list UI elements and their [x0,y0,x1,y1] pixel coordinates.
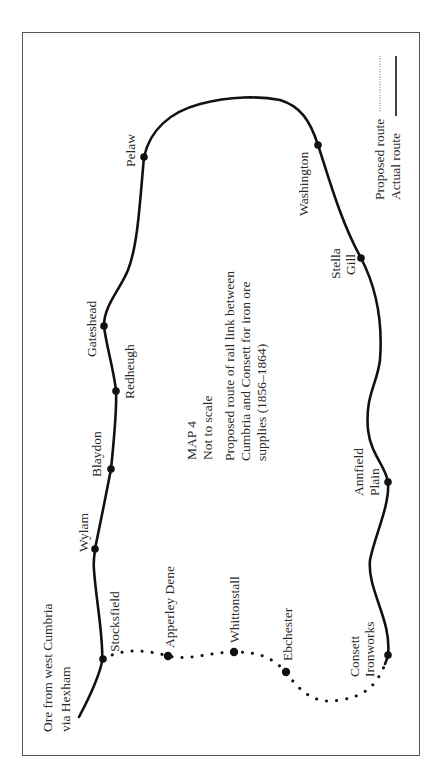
label-redheugh: Redheugh [122,344,137,399]
station-dot-wylam [91,545,99,553]
label-gateshead: Gateshead [84,301,99,357]
label-pelaw: Pelaw [123,134,138,167]
station-dot-annfield-plain [384,478,392,486]
label-annfield: Annfield [351,448,366,496]
label-ebchester: Ebchester [280,608,295,661]
origin-note-line-2: via Hexham [58,666,73,732]
station-dot-whittonstall [230,648,238,656]
station-dot-ebchester [282,668,290,676]
label-consett: Consett [347,636,362,677]
map-title: MAP 4 [184,421,199,460]
station-dot-blaydon [107,465,115,473]
station-dot-stocksfield [99,655,107,663]
label-washington: Washington [296,152,311,216]
legend-proposed-label: Proposed route [372,119,387,200]
caption-line-2: Cumbria and Consett for iron ore [238,281,253,461]
station-dot-pelaw [140,153,148,161]
label-blaydon: Blaydon [89,431,104,477]
caption-line-1: Proposed route of rail link between [222,271,237,461]
station-dot-consett-ironworks [384,651,392,659]
station-dot-stella-gill [357,254,365,262]
station-dot-washington [314,141,322,149]
label-apperley-dene: Apperley Dene [162,566,177,648]
caption-line-3: supplies (1856–1864) [254,344,269,461]
station-dot-gateshead [100,322,108,330]
proposed-route-line [103,651,385,701]
label-whittonstall: Whittonstall [227,576,242,643]
label-wylam: Wylam [76,513,91,552]
station-dot-redheugh [112,387,120,395]
label-plain: Plain [367,468,382,496]
origin-note-line-1: Ore from west Cumbria [40,603,55,732]
station-dot-apperley-dene [164,652,172,660]
legend-actual-label: Actual route [388,133,403,200]
label-stella: Stella [328,248,343,279]
label-gill: Gill [343,254,358,275]
scale-note: Not to scale [200,396,215,460]
label-stocksfield: Stocksfield [107,591,122,652]
label-ironworks: Ironworks [362,622,377,678]
